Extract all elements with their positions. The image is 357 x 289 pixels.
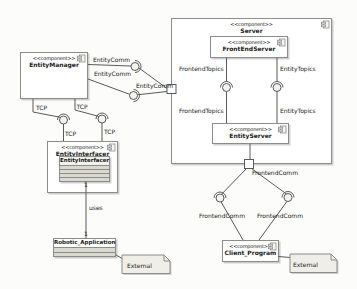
socket-frontendcomm-right — [282, 192, 294, 198]
component-front-end-server: <<component>> FrontEndServer — [210, 36, 288, 58]
label-tcp-upper-right: TCP — [77, 103, 88, 110]
ball-frontendcomm-right — [284, 194, 292, 202]
socket-frontendcomm-left — [214, 192, 226, 198]
component-icon — [278, 125, 287, 134]
label-entitycomm-mid: EntityComm — [94, 70, 131, 77]
connector-entitycomm-2b — [138, 92, 168, 95]
connector-frontendcomm-left-a — [222, 169, 247, 195]
component-icon — [277, 38, 286, 47]
label-multiplicity-target: 1 — [84, 230, 88, 237]
note-left-fold — [164, 255, 170, 261]
label-tcp-lower-left: TCP — [65, 130, 76, 137]
component-entity-server: <<component>> EntityServer — [212, 123, 289, 144]
label-frontendcomm-left: FrontendComm — [199, 212, 245, 219]
component-icon — [268, 242, 277, 251]
connector-entitycomm-1 — [88, 65, 131, 67]
component-entity-manager: <<component>> EntityManager — [20, 52, 88, 99]
socket-tcp-left — [58, 114, 70, 120]
socket-entitycomm-1 — [135, 61, 141, 73]
ball-tcp-right — [98, 115, 106, 123]
class-compartment — [54, 252, 115, 257]
class-robotic-application-name: Robotic_Application — [54, 239, 115, 247]
note-anchor-left — [116, 255, 123, 259]
ball-tcp-left — [60, 116, 68, 124]
component-client-program: <<component>> Client_Program — [222, 240, 279, 262]
server-name: Server — [172, 27, 331, 34]
label-entitycomm-top: EntityComm — [93, 56, 130, 63]
ball-entitycomm-1 — [131, 63, 139, 71]
server-stereotype: <<component>> — [172, 19, 331, 27]
socket-tcp-right — [96, 113, 108, 119]
ball-frontendcomm-left — [216, 194, 224, 202]
note-right-text: External — [293, 261, 318, 268]
entity-server-name: EntityServer — [213, 132, 288, 139]
label-tcp-lower-right: TCP — [104, 128, 115, 135]
note-right-fold — [331, 254, 337, 260]
note-left-text: External — [127, 262, 152, 269]
label-entitytopics-lower: EntityTopics — [280, 107, 316, 114]
component-icon — [107, 143, 116, 152]
label-frontendcomm-right: FrontendComm — [257, 212, 303, 219]
uml-component-diagram: <<component>> Server <<component>> Entit… — [0, 0, 357, 289]
connector-entitycomm-2 — [88, 79, 130, 94]
label-entitycomm-port: EntityComm — [136, 82, 173, 89]
label-frontendtopics-upper: FrontendTopics — [179, 65, 224, 72]
connector-frontendcomm-left-b — [221, 202, 243, 240]
class-entity-interfacer: EntityInterfacer — [59, 156, 110, 182]
label-uses: uses — [89, 204, 103, 211]
label-frontendcomm-port: FrontendComm — [252, 169, 298, 176]
component-icon — [77, 54, 86, 63]
label-multiplicity-source: 1 — [84, 181, 88, 188]
label-tcp-upper-left: TCP — [36, 104, 47, 111]
connector-frontendcomm-right-b — [259, 201, 287, 240]
front-end-server-stereotype: <<component>> — [211, 37, 287, 45]
label-entitytopics-upper: EntityTopics — [280, 65, 316, 72]
class-entity-interfacer-name: EntityInterfacer — [60, 157, 109, 165]
component-icon — [321, 20, 330, 29]
ball-entitycomm-2 — [130, 92, 138, 100]
label-frontendtopics-lower: FrontendTopics — [179, 107, 224, 114]
socket-entitycomm-2 — [134, 90, 140, 102]
note-anchor-right — [279, 257, 291, 258]
entity-server-stereotype: <<component>> — [213, 124, 288, 132]
class-robotic-application: Robotic_Application — [53, 238, 116, 257]
front-end-server-name: FrontEndServer — [211, 45, 287, 52]
